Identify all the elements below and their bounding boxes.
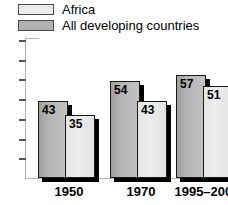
plot-area: 433554435751 xyxy=(0,38,228,183)
bar-group: 5751 xyxy=(176,43,228,178)
bar-group: 5443 xyxy=(110,43,172,178)
chart-legend: Africa All developing countries xyxy=(18,1,226,33)
legend-swatch-all-developing-countries xyxy=(18,20,54,31)
legend-swatch-africa xyxy=(18,4,54,15)
x-axis-category-labels: 195019701995–2000 xyxy=(0,184,228,204)
x-axis-label: 1995–2000 xyxy=(164,184,228,199)
legend-label-africa: Africa xyxy=(62,3,95,16)
bar-value-label: 35 xyxy=(69,118,82,130)
bar-series-container: 433554435751 xyxy=(0,38,228,183)
legend-label-all-developing-countries: All developing countries xyxy=(62,19,199,32)
bar-value-label: 43 xyxy=(42,104,55,116)
legend-item-africa: Africa xyxy=(18,1,226,17)
bar-value-label: 43 xyxy=(141,104,154,116)
bar-chart: Africa All developing countries 43355443… xyxy=(0,0,228,205)
bar-value-label: 54 xyxy=(114,84,127,96)
bar-group: 4335 xyxy=(38,43,100,178)
legend-item-all-developing-countries: All developing countries xyxy=(18,17,226,33)
bar-value-label: 51 xyxy=(207,89,220,101)
bar-value-label: 57 xyxy=(180,78,193,90)
